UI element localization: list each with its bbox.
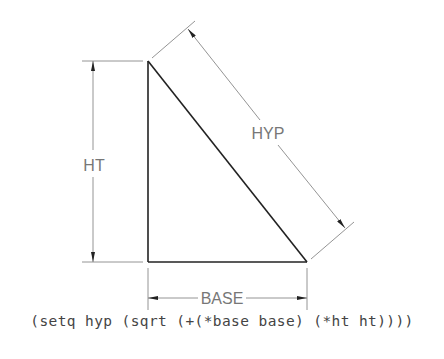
base-label: BASE (201, 290, 244, 307)
hypotenuse-label: HYP (252, 125, 285, 142)
triangle-diagram: HT HYP BASE (0, 0, 444, 359)
lisp-code-line: (setq hyp (sqrt (+(*base base) (*ht ht))… (0, 313, 444, 329)
height-label: HT (83, 157, 105, 174)
right-triangle (148, 61, 307, 262)
